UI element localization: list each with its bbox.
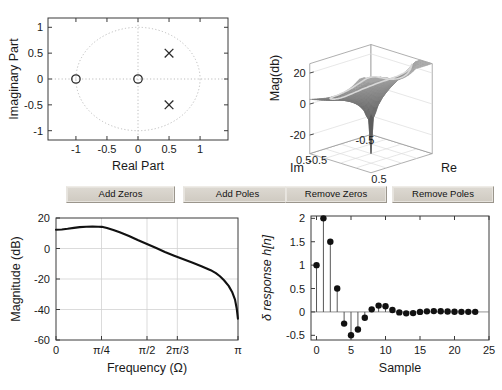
svg-text:-20: -20 [290,129,306,141]
svg-text:-0.5: -0.5 [97,143,116,155]
svg-text:π/4: π/4 [93,344,110,356]
svg-text:10: 10 [379,344,391,356]
magnitude-response-chart[interactable]: 0π/4π/22π/3π-60-40-20020Frequency (Ω)Mag… [0,204,251,390]
svg-text:Real Part: Real Part [112,159,165,173]
svg-text:0.5: 0.5 [28,47,43,59]
svg-text:0: 0 [44,243,50,255]
svg-text:Mag(db): Mag(db) [268,55,282,102]
svg-text:25: 25 [483,344,495,356]
svg-text:1.5: 1.5 [290,236,305,248]
svg-text:20: 20 [294,67,306,79]
svg-text:20: 20 [448,344,460,356]
svg-text:-0.5: -0.5 [286,329,305,341]
svg-text:π/2: π/2 [139,344,156,356]
svg-text:-0.5: -0.5 [356,134,375,146]
svg-text:-0.5: -0.5 [308,154,327,166]
svg-text:0: 0 [53,344,59,356]
svg-text:0.5: 0.5 [371,173,386,185]
magnitude-response-panel: 0π/4π/22π/3π-60-40-20020Frequency (Ω)Mag… [0,204,251,390]
svg-text:-40: -40 [34,304,50,316]
svg-text:δ response h[n]: δ response h[n] [260,234,274,321]
svg-text:-20: -20 [34,273,50,285]
svg-text:-1: -1 [71,143,81,155]
svg-text:0: 0 [313,344,319,356]
svg-text:1: 1 [299,259,305,271]
svg-text:1: 1 [37,21,43,33]
svg-text:0.5: 0.5 [290,283,305,295]
svg-text:-0.5: -0.5 [24,99,43,111]
svg-text:Magnitude (dB): Magnitude (dB) [9,236,23,321]
svg-text:2: 2 [299,212,305,224]
svg-text:0: 0 [299,306,305,318]
impulse-response-panel: 0510152025-0.500.511.52Sampleδ response … [253,204,502,390]
remove-zeros-button[interactable]: Remove Zeros [285,186,387,203]
pole-zero-chart[interactable]: -1-0.500.51-1-0.500.51Real PartImaginary… [0,0,251,186]
magnitude-surface-panel: -200200.5-0.5-0.50.5ImReMag(db) [253,0,502,186]
svg-text:0: 0 [37,73,43,85]
svg-text:1: 1 [197,143,203,155]
svg-text:0: 0 [135,143,141,155]
svg-text:20: 20 [38,212,50,224]
magnitude-surface-chart[interactable]: -200200.5-0.5-0.50.5ImReMag(db) [253,0,502,186]
svg-text:15: 15 [414,344,426,356]
pole-zero-panel: -1-0.500.51-1-0.500.51Real PartImaginary… [0,0,251,186]
svg-text:Sample: Sample [379,361,421,375]
svg-text:Im: Im [290,161,304,175]
control-button-row: Add Zeros Add Poles Remove Zeros Remove … [0,186,502,204]
svg-text:Re: Re [441,161,457,175]
remove-poles-button[interactable]: Remove Poles [392,186,494,203]
svg-text:Imaginary Part: Imaginary Part [7,38,21,120]
add-poles-button[interactable]: Add Poles [183,186,292,203]
impulse-response-chart[interactable]: 0510152025-0.500.511.52Sampleδ response … [253,204,502,390]
svg-text:0.5: 0.5 [161,143,176,155]
svg-text:π: π [234,344,242,356]
svg-text:5: 5 [348,344,354,356]
add-zeros-button[interactable]: Add Zeros [66,186,175,203]
svg-text:-1: -1 [33,125,43,137]
svg-text:0: 0 [300,98,306,110]
svg-text:Frequency (Ω): Frequency (Ω) [107,361,187,375]
svg-text:-60: -60 [34,334,50,346]
svg-text:2π/3: 2π/3 [166,344,189,356]
